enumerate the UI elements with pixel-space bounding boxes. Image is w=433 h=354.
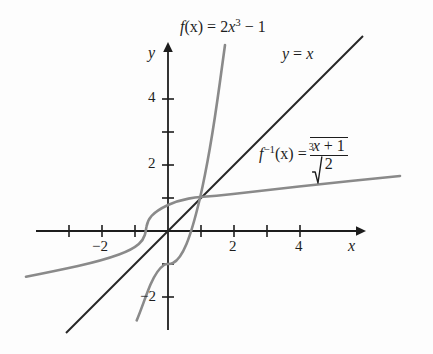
function-coefficient: 2 <box>220 18 228 35</box>
cube-root-radical: 3x + 12 <box>307 137 348 174</box>
inverse-equals: = <box>298 145 307 162</box>
y-tick-label-4: 4 <box>148 89 156 106</box>
numerator-plus: + <box>324 137 333 154</box>
identity-equals: = <box>293 45 302 62</box>
identity-equation-label: y = x <box>282 45 313 63</box>
x-axis-arrow <box>356 226 366 236</box>
x-tick-label-neg2: −2 <box>92 238 108 255</box>
numerator-variable: x <box>313 137 320 154</box>
function-exponent: 3 <box>235 16 240 28</box>
y-axis <box>162 42 174 330</box>
x-axis-label: x <box>348 237 355 255</box>
y-tick-label-2: 2 <box>148 155 156 172</box>
graph-figure: y x −2 2 4 4 2 −2 f(x) = 2x3 − 1 y = x f… <box>0 0 433 354</box>
fraction-numerator: x + 1 <box>310 138 348 156</box>
radicand: x + 12 <box>310 137 348 174</box>
fraction-denominator: 2 <box>310 156 348 173</box>
inverse-curve <box>26 176 400 277</box>
numerator-constant: 1 <box>337 137 345 154</box>
function-curve <box>137 45 225 320</box>
y-axis-label: y <box>148 44 155 62</box>
inverse-argument: (x) <box>275 145 294 162</box>
function-equation-label: f(x) = 2x3 − 1 <box>180 16 266 36</box>
fraction: x + 12 <box>310 138 348 173</box>
graph-canvas <box>0 0 433 354</box>
function-argument: (x) <box>184 18 203 35</box>
identity-left: y <box>282 45 289 62</box>
function-minus: − <box>245 18 254 35</box>
function-constant: 1 <box>258 18 266 35</box>
inverse-superscript: −1 <box>263 143 275 155</box>
x-axis <box>36 225 366 237</box>
y-tick-label-neg2: −2 <box>140 288 156 305</box>
y-axis-arrow <box>163 42 173 52</box>
x-tick-label-4: 4 <box>295 238 303 255</box>
inverse-equation-label: f−1(x) =3x + 12 <box>259 137 348 174</box>
identity-right: x <box>306 45 313 62</box>
x-tick-label-2: 2 <box>229 238 237 255</box>
function-equals: = <box>207 18 216 35</box>
